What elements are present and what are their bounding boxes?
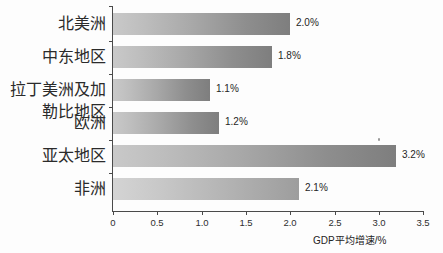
y-axis-tick bbox=[109, 6, 113, 7]
y-axis-tick bbox=[109, 140, 113, 141]
bar-europe bbox=[113, 112, 219, 134]
x-axis-tick-label: 3.0 bbox=[372, 217, 385, 228]
category-label-3: 欧洲 bbox=[0, 112, 106, 134]
x-axis-tick bbox=[113, 211, 114, 215]
y-axis-tick bbox=[109, 74, 113, 75]
x-axis-tick bbox=[379, 211, 380, 215]
x-axis-tick-label: 2.5 bbox=[328, 217, 341, 228]
category-label-1: 中东地区 bbox=[0, 46, 106, 68]
category-label-5: 非洲 bbox=[0, 178, 106, 200]
x-axis-tick-label: 1.5 bbox=[239, 217, 252, 228]
bar-chart: 北美洲 中东地区 拉丁美洲及加勒比地区 欧洲 亚太地区 非洲 2.0% 1.8%… bbox=[0, 0, 443, 253]
bar-middle-east bbox=[113, 46, 272, 68]
bar-value-label: 3.2% bbox=[402, 149, 425, 160]
x-axis-tick-label: 3.5 bbox=[416, 217, 429, 228]
x-axis-title: GDP平均增速/% bbox=[313, 232, 386, 247]
x-axis-tick-label: 0 bbox=[110, 217, 115, 228]
category-label-2: 拉丁美洲及加勒比地区 bbox=[0, 79, 106, 101]
bar-latin-america-caribbean bbox=[113, 79, 210, 101]
scan-artifact-speck bbox=[378, 138, 380, 141]
bar-value-label: 1.8% bbox=[278, 50, 301, 61]
x-axis-tick bbox=[423, 211, 424, 215]
plot-area: 2.0% 1.8% 1.1% 1.2% 3.2% 2.1% bbox=[113, 6, 423, 211]
x-axis-line bbox=[112, 211, 424, 212]
bar-value-label: 1.1% bbox=[216, 83, 239, 94]
x-axis-tick-label: 1.0 bbox=[195, 217, 208, 228]
y-axis-tick bbox=[109, 41, 113, 42]
category-label-4: 亚太地区 bbox=[0, 145, 106, 167]
category-label-0: 北美洲 bbox=[0, 13, 106, 35]
x-axis-tick-label: 0.5 bbox=[150, 217, 163, 228]
bar-value-label: 2.0% bbox=[296, 17, 319, 28]
bar-value-label: 1.2% bbox=[225, 116, 248, 127]
x-axis-tick bbox=[157, 211, 158, 215]
bar-value-label: 2.1% bbox=[305, 182, 328, 193]
y-axis-tick bbox=[109, 107, 113, 108]
bar-north-america bbox=[113, 13, 290, 35]
x-axis-tick bbox=[246, 211, 247, 215]
bar-africa bbox=[113, 178, 299, 200]
x-axis-tick bbox=[335, 211, 336, 215]
bar-asia-pacific bbox=[113, 145, 396, 167]
x-axis-tick-label: 2.0 bbox=[283, 217, 296, 228]
x-axis-tick bbox=[290, 211, 291, 215]
y-axis-tick bbox=[109, 173, 113, 174]
x-axis-tick bbox=[202, 211, 203, 215]
